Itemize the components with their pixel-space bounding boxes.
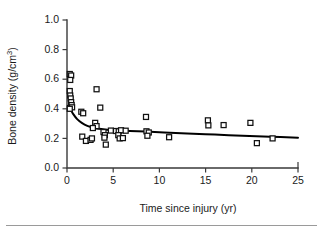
x-tick-label: 20 [246, 174, 258, 186]
data-point-marker [81, 111, 86, 116]
axis-spines [67, 20, 298, 168]
data-point-marker [270, 136, 275, 141]
y-axis-ticks: 0.00.20.40.60.81.0 [44, 13, 67, 173]
x-tick-label: 5 [110, 174, 116, 186]
data-point-marker [98, 105, 103, 110]
data-point-marker [103, 142, 108, 147]
x-tick-label: 25 [292, 174, 304, 186]
y-tick-label: 1.0 [44, 13, 59, 25]
data-point-marker [254, 141, 259, 146]
y-axis-title-base: Bone density (g/cm [6, 55, 18, 145]
data-point-marker [67, 106, 72, 111]
x-axis-title: Time since injury (yr) [139, 202, 236, 214]
scatter-plot: 0.00.20.40.60.81.0 0510152025 Time since… [0, 0, 323, 230]
x-axis-ticks: 0510152025 [64, 168, 304, 186]
data-point-marker [123, 128, 128, 133]
data-point-marker [90, 126, 95, 131]
data-point-marker [108, 128, 113, 133]
x-tick-label: 0 [64, 174, 70, 186]
y-axis-title: Bone density (g/cm3) [5, 47, 18, 145]
figure-container: 0.00.20.40.60.81.0 0510152025 Time since… [0, 0, 323, 230]
x-tick-label: 15 [200, 174, 212, 186]
y-tick-label: 0.6 [44, 72, 59, 84]
data-point-marker [89, 136, 94, 141]
data-point-marker [248, 120, 253, 125]
x-tick-label: 10 [154, 174, 166, 186]
y-axis-title-close-paren: ) [6, 47, 18, 51]
y-tick-label: 0.8 [44, 43, 59, 55]
y-tick-label: 0.0 [44, 161, 59, 173]
data-point-marker [145, 133, 150, 138]
data-point-marker [205, 118, 210, 123]
y-tick-label: 0.4 [44, 102, 59, 114]
data-point-marker [206, 123, 211, 128]
data-point-marker [144, 114, 149, 119]
data-point-marker [68, 77, 73, 82]
y-axis-title-group: Bone density (g/cm3) [5, 47, 18, 145]
data-point-marker [167, 135, 172, 140]
data-point-marker [120, 136, 125, 141]
data-point-marker [102, 135, 107, 140]
data-point-marker [221, 123, 226, 128]
y-tick-label: 0.2 [44, 132, 59, 144]
data-point-marker [94, 87, 99, 92]
plot-axes [67, 20, 298, 168]
